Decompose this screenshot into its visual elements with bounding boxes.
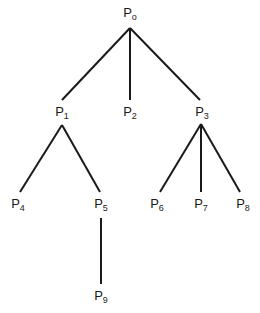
node-p0: Po	[123, 6, 137, 22]
node-p5: P5	[94, 197, 108, 213]
node-label: P	[195, 104, 204, 119]
node-label: P	[94, 288, 103, 303]
edge-P1-P4	[20, 125, 62, 192]
edge-P1-P5	[62, 125, 100, 192]
edge-P0-P3	[130, 28, 200, 100]
node-label: P	[123, 5, 132, 20]
node-p6: P6	[150, 197, 164, 213]
node-subscript: 8	[245, 203, 250, 213]
node-label: P	[11, 196, 20, 211]
node-p1: P1	[55, 105, 69, 121]
node-label: P	[123, 104, 132, 119]
node-label: P	[236, 196, 245, 211]
node-subscript: o	[132, 12, 137, 22]
node-p7: P7	[194, 197, 208, 213]
node-label: P	[55, 104, 64, 119]
node-p3: P3	[195, 105, 209, 121]
node-subscript: 2	[132, 111, 137, 121]
tree-edges	[0, 0, 260, 313]
node-label: P	[94, 196, 103, 211]
tree-diagram: PoP1P2P3P4P5P6P7P8P9	[0, 0, 260, 313]
node-subscript: 9	[103, 295, 108, 305]
node-subscript: 4	[20, 203, 25, 213]
node-subscript: 7	[203, 203, 208, 213]
node-label: P	[194, 196, 203, 211]
node-p2: P2	[123, 105, 137, 121]
node-subscript: 1	[64, 111, 69, 121]
edge-P3-P6	[160, 124, 201, 192]
edge-P3-P8	[201, 124, 240, 192]
node-p8: P8	[236, 197, 250, 213]
node-p4: P4	[11, 197, 25, 213]
node-subscript: 3	[204, 111, 209, 121]
edge-P0-P1	[62, 28, 130, 100]
node-subscript: 5	[103, 203, 108, 213]
node-label: P	[150, 196, 159, 211]
node-subscript: 6	[159, 203, 164, 213]
node-p9: P9	[94, 289, 108, 305]
